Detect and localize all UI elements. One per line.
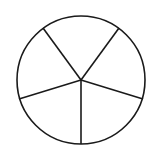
pie-diagram bbox=[0, 0, 159, 148]
